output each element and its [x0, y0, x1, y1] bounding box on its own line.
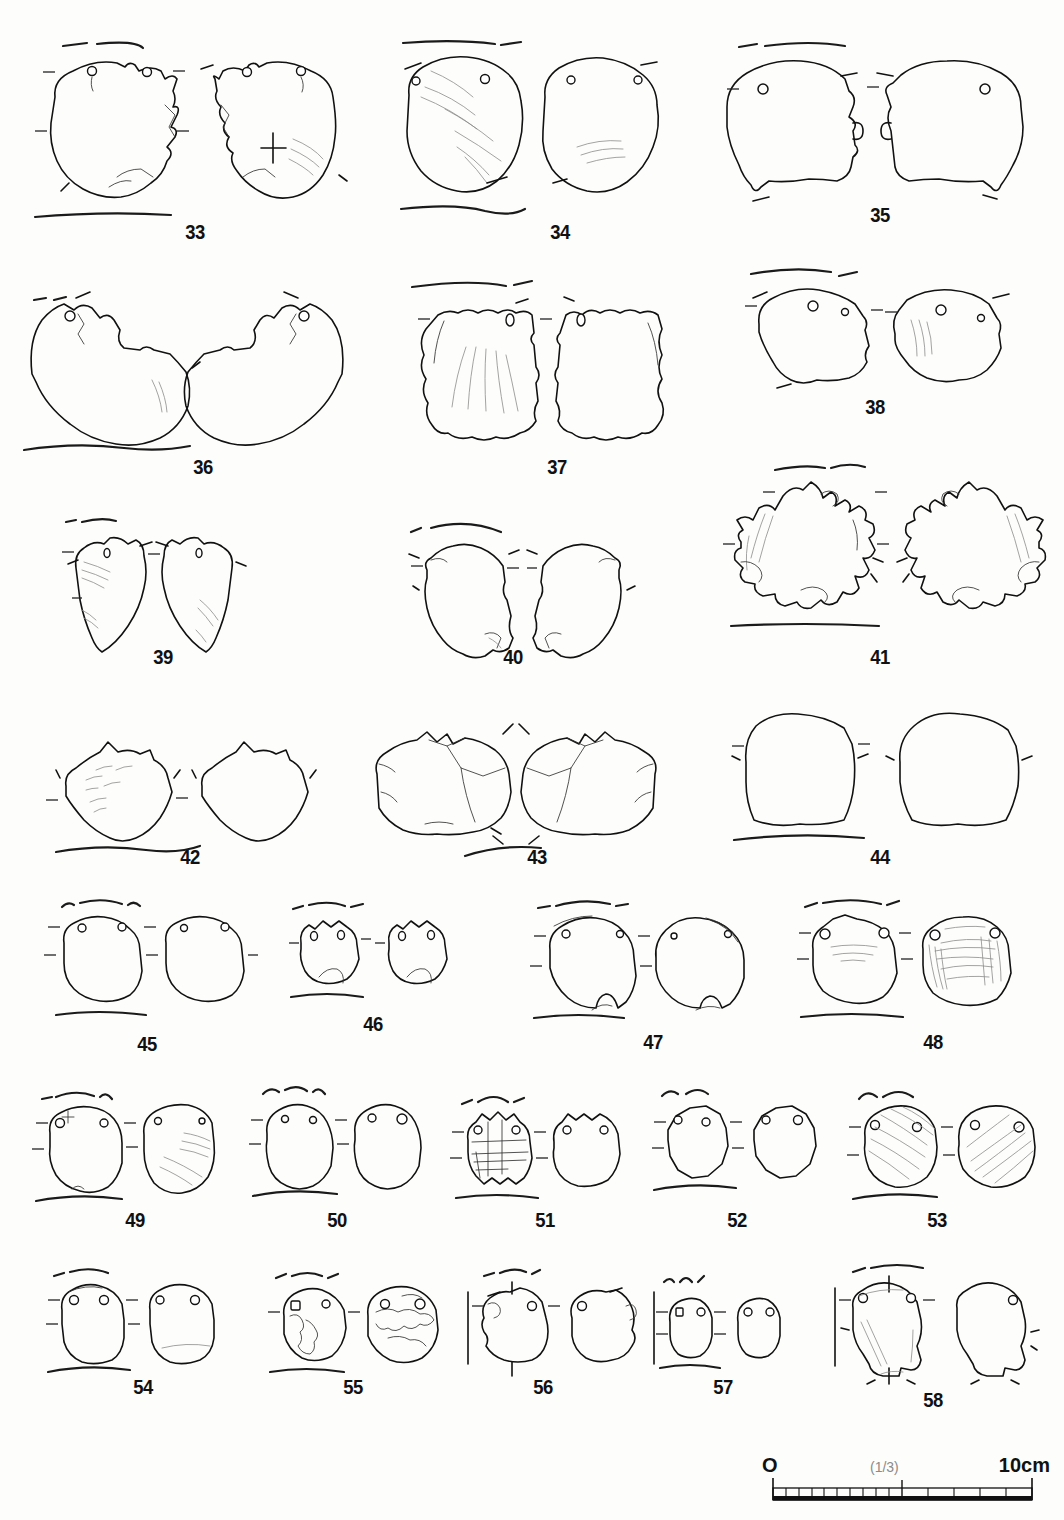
perforation-icon [299, 311, 309, 321]
profile-line-bottom [734, 835, 864, 840]
detached-edge [867, 1380, 875, 1384]
detached-edge [753, 292, 767, 298]
break-facet [637, 764, 653, 772]
break-facet [853, 520, 858, 550]
surface-striation [833, 953, 873, 955]
artifact-42-view-left [66, 742, 172, 841]
profile-line-bottom [24, 445, 190, 450]
detached-edge [529, 836, 539, 844]
detached-edge [858, 754, 868, 758]
perforation-icon [725, 931, 732, 938]
shell-rib [485, 349, 486, 411]
scale-bar-graphic [760, 1478, 1050, 1514]
profile-line-top-b [686, 1090, 708, 1094]
surface-striation [184, 1133, 210, 1141]
break-facet [635, 792, 651, 802]
artifact-33-view-left [51, 62, 179, 197]
perforation-icon [990, 928, 1000, 938]
profile-line-top-b [309, 903, 345, 906]
surface-striation [941, 939, 991, 943]
perforation-icon [842, 309, 849, 316]
detached-edge [503, 724, 513, 734]
detached-edge [971, 1380, 979, 1384]
figure-number-43: 43 [515, 845, 559, 869]
surface-striation [945, 926, 985, 929]
detached-edge [897, 558, 907, 562]
perforation-icon [676, 1308, 683, 1316]
artifact-50-view-left [266, 1105, 333, 1189]
figure-number-36: 36 [181, 455, 225, 479]
perforation-icon [528, 1302, 537, 1311]
detached-edge [156, 542, 168, 546]
perforation-icon [65, 311, 75, 321]
detached-edge [310, 770, 316, 778]
artifact-35-view-left [727, 61, 858, 191]
break-facet [381, 792, 397, 802]
perforation-icon [1014, 1122, 1024, 1132]
profile-line-top-b [431, 524, 501, 532]
figure-53 [845, 1085, 1045, 1210]
profile-line-top-a [859, 1093, 877, 1099]
profile-line-bottom [48, 1367, 130, 1372]
profile-line-top-b [871, 1265, 923, 1268]
perforation-icon [913, 1123, 922, 1132]
detached-edge [871, 574, 877, 582]
surface-striation [967, 1115, 1009, 1147]
figure-number-53: 53 [915, 1208, 959, 1232]
detached-edge [993, 294, 1009, 298]
surface-striation [421, 97, 477, 129]
perforation-icon [428, 931, 435, 940]
shell-rib [506, 355, 518, 411]
profile-line-bottom [270, 1369, 344, 1372]
profile-line-top-b [478, 1097, 508, 1102]
detached-edge [1031, 1346, 1037, 1350]
artifact-plate: 33 34 [0, 0, 1064, 1520]
break-facet [425, 822, 453, 824]
surface-striation [1007, 516, 1021, 562]
scale-fraction-label: (1/3) [870, 1459, 899, 1475]
perforation-icon [221, 923, 229, 931]
artifact-44-view-left [746, 714, 855, 826]
surface-striation [182, 1141, 210, 1149]
perforation-icon [474, 1126, 482, 1134]
perforation-icon [291, 1301, 300, 1310]
perforation-icon [310, 1117, 317, 1124]
perforation-icon [100, 1296, 109, 1305]
figure-number-45: 45 [125, 1032, 169, 1056]
surface-striation [162, 1344, 210, 1348]
detached-edge [1031, 1330, 1039, 1332]
detached-edge [487, 177, 507, 183]
perforation-icon [322, 1300, 330, 1308]
surface-striation [746, 536, 749, 570]
perforation-icon [88, 67, 97, 76]
figure-55 [262, 1268, 447, 1383]
surface-striation [831, 945, 877, 947]
perforation-icon [297, 67, 306, 76]
figure-50 [245, 1082, 425, 1202]
figure-42-drawing [38, 720, 298, 860]
artifact-38-view-right [894, 290, 1001, 382]
detached-edge [509, 550, 519, 554]
perforation-icon [577, 314, 585, 326]
shell-rib [648, 323, 658, 365]
edge-notch [488, 1303, 500, 1318]
perforation-icon [397, 1114, 407, 1124]
scale-bar: O (1/3) 10cm [760, 1450, 1050, 1510]
perforation-icon [100, 1119, 108, 1127]
figure-33 [25, 35, 365, 235]
profile-line-top-a [263, 1089, 279, 1094]
artifact-37-view-left [421, 310, 539, 440]
figure-number-52: 52 [715, 1208, 759, 1232]
profile-line-top-b [97, 43, 143, 48]
surface-striation [577, 141, 621, 147]
surface-striation [871, 1139, 919, 1169]
break-facet [952, 587, 979, 602]
perforation-icon [56, 1119, 65, 1128]
profile-line-top-c [698, 1276, 704, 1282]
surface-striation [293, 139, 323, 159]
figure-45-drawing [40, 895, 260, 1025]
edge-retouch [710, 920, 738, 942]
perforation-icon [199, 1118, 205, 1124]
profile-line-top-a [66, 520, 76, 522]
artifact-44-view-right [900, 713, 1019, 825]
